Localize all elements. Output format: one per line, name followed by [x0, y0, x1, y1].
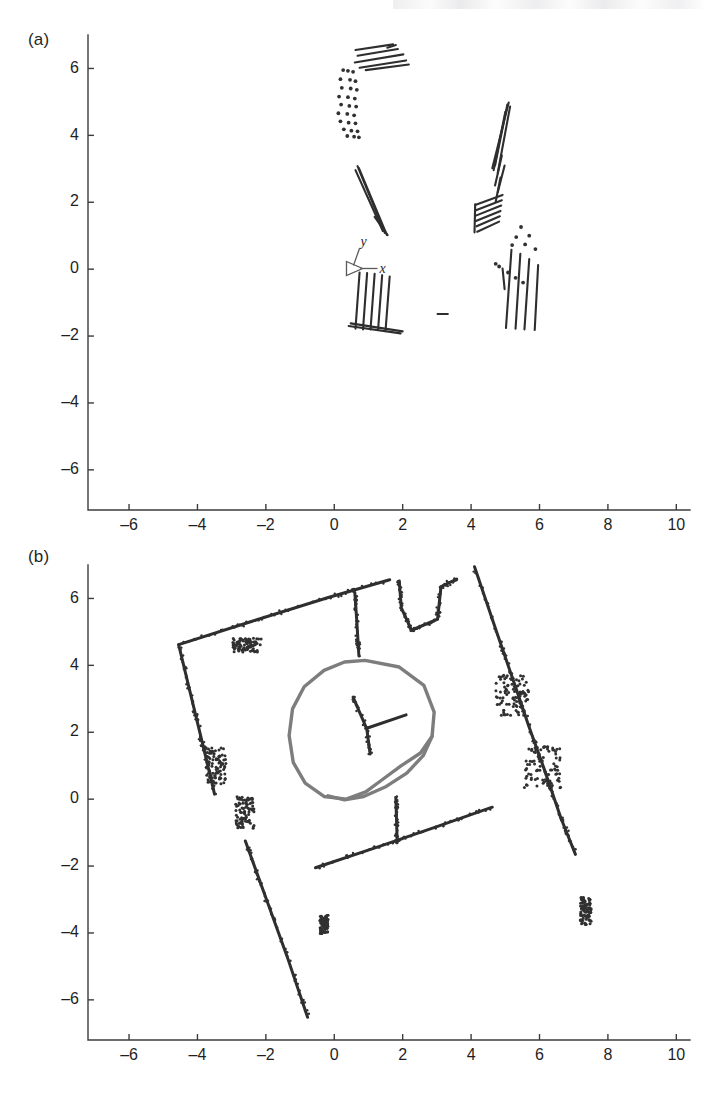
scan-point [346, 69, 350, 73]
map-clutter-point [502, 709, 505, 712]
map-point [356, 595, 358, 597]
map-point [353, 607, 355, 609]
map-clutter-point [499, 696, 502, 699]
scan-point [354, 121, 358, 125]
map-clutter-point [519, 674, 522, 677]
map-point [252, 861, 254, 863]
map-clutter-point [232, 643, 235, 646]
map-clutter-point [241, 796, 244, 799]
map-point [562, 820, 564, 822]
map-clutter-point [523, 786, 526, 789]
map-point [387, 843, 389, 845]
map-point [200, 744, 202, 746]
map-point [285, 952, 287, 954]
map-clutter-point [248, 640, 251, 643]
map-point [508, 662, 510, 664]
scan-segment [476, 211, 501, 221]
map-clutter-point [509, 714, 512, 717]
map-point [179, 647, 181, 649]
map-point [456, 817, 458, 819]
x-tick-label: 4 [467, 1046, 476, 1063]
map-point [270, 913, 272, 915]
map-point [182, 641, 184, 643]
scan-point [348, 78, 352, 82]
map-clutter-point [223, 766, 226, 769]
map-clutter-point [214, 749, 217, 752]
map-point [366, 731, 368, 733]
map-clutter-point [222, 781, 225, 784]
map-point [394, 835, 396, 837]
map-point [306, 1009, 308, 1011]
scan-point [347, 121, 351, 125]
map-clutter-point [545, 780, 548, 783]
scan-point [353, 97, 357, 101]
map-clutter-point [513, 702, 516, 705]
map-clutter-point [514, 696, 517, 699]
map-clutter-point [523, 684, 526, 687]
map-point [395, 842, 397, 844]
map-point [192, 710, 194, 712]
map-clutter-point [249, 802, 252, 805]
map-clutter-point [525, 783, 528, 786]
scan-segment [475, 195, 502, 205]
scan-point [355, 88, 359, 92]
map-clutter-point [531, 760, 534, 763]
map-point [369, 735, 371, 737]
scan-point [510, 243, 514, 247]
map-point [403, 616, 405, 618]
scan-segment [535, 265, 538, 330]
map-clutter-point [525, 760, 528, 763]
map-clutter-point [215, 781, 218, 784]
map-point [439, 598, 441, 600]
map-clutter-point [210, 746, 213, 749]
map-clutter-point [216, 770, 219, 773]
map-point [198, 738, 200, 740]
map-point [355, 701, 357, 703]
map-clutter-point [579, 914, 582, 917]
map-clutter-point [584, 923, 587, 926]
map-clutter-point [558, 772, 561, 775]
map-clutter-point [221, 762, 224, 765]
map-clutter-point [211, 758, 214, 761]
map-point [180, 658, 182, 660]
map-point [355, 623, 357, 625]
map-clutter-point [513, 698, 516, 701]
map-clutter-point [238, 808, 241, 811]
map-point [555, 802, 557, 804]
map-point [359, 647, 361, 649]
map-point [263, 616, 265, 618]
map-point [322, 863, 324, 865]
map-point [356, 646, 358, 648]
map-point [396, 811, 398, 813]
map-clutter-point [211, 750, 214, 753]
map-point [285, 609, 287, 611]
map-point [289, 960, 291, 962]
map-point [400, 609, 402, 611]
map-point [508, 671, 510, 673]
map-point [250, 858, 252, 860]
map-point [487, 605, 489, 607]
map-clutter-point [494, 689, 497, 692]
map-point [299, 989, 301, 991]
y-tick-label: –4 [61, 393, 79, 410]
x-tick-label: –4 [189, 1046, 207, 1063]
map-point [297, 993, 299, 995]
map-clutter-point [547, 773, 550, 776]
map-clutter-point [535, 784, 538, 787]
scan-point [340, 86, 344, 90]
map-point [359, 655, 361, 657]
map-clutter-point [234, 647, 237, 650]
map-clutter-point [319, 932, 322, 935]
map-point [423, 622, 425, 624]
map-clutter-point [247, 645, 250, 648]
map-clutter-point [249, 650, 252, 653]
y-tick-label: –2 [61, 856, 79, 873]
map-clutter-point [246, 820, 249, 823]
map-point [365, 736, 367, 738]
map-point [242, 625, 244, 627]
map-clutter-point [241, 823, 244, 826]
map-clutter-point [539, 765, 542, 768]
map-point [564, 830, 566, 832]
y-tick-label: 2 [70, 722, 79, 739]
map-clutter-point [252, 647, 255, 650]
